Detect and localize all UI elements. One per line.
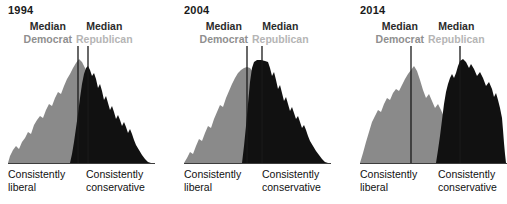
axis-labels: Consistently liberal Consistently conser…	[184, 168, 326, 198]
axis-label-liberal: Consistently liberal	[8, 168, 65, 194]
panel-2014: 2014 Median Democrat Median Republican C…	[352, 0, 502, 204]
axis-label-conservative: Consistently conservative	[262, 168, 321, 194]
axis-label-liberal: Consistently liberal	[184, 168, 241, 194]
axis-labels: Consistently liberal Consistently conser…	[360, 168, 502, 198]
baseline	[184, 163, 331, 164]
legend-median-label-republican: Median	[76, 20, 133, 33]
legend-republican: Median Republican	[76, 20, 133, 45]
baseline	[8, 163, 155, 164]
axis-label-conservative: Consistently conservative	[86, 168, 145, 194]
legend-median-label-republican: Median	[428, 20, 485, 33]
panel-2004: 2004 Median Democrat Median Republican C…	[176, 0, 326, 204]
distribution-plot	[360, 46, 507, 163]
republican-area	[436, 59, 506, 163]
legend-median-label-democrat: Median	[24, 20, 72, 33]
panel-year-label: 1994	[8, 4, 33, 16]
legend-democrat: Median Democrat	[376, 20, 424, 45]
legend-republican: Median Republican	[428, 20, 485, 45]
legend-median-label-democrat: Median	[200, 20, 248, 33]
legend-party-democrat: Democrat	[376, 33, 424, 46]
legend-party-democrat: Democrat	[24, 33, 72, 46]
distribution-plot	[184, 46, 331, 163]
panel-year-label: 2004	[184, 4, 209, 16]
panel-year-label: 2014	[360, 4, 385, 16]
legend-democrat: Median Democrat	[24, 20, 72, 45]
axis-label-liberal: Consistently liberal	[360, 168, 417, 194]
legend-median-label-democrat: Median	[376, 20, 424, 33]
legend-party-republican: Republican	[252, 33, 309, 46]
legend-party-republican: Republican	[76, 33, 133, 46]
baseline	[360, 163, 507, 164]
legend-democrat: Median Democrat	[200, 20, 248, 45]
axis-label-conservative: Consistently conservative	[438, 168, 497, 194]
legend-party-republican: Republican	[428, 33, 485, 46]
panel-1994: 1994 Median Democrat Median Republican C…	[0, 0, 150, 204]
legend-republican: Median Republican	[252, 20, 309, 45]
legend-party-democrat: Democrat	[200, 33, 248, 46]
axis-labels: Consistently liberal Consistently conser…	[8, 168, 150, 198]
distribution-plot	[8, 46, 155, 163]
legend-median-label-republican: Median	[252, 20, 309, 33]
republican-area	[242, 60, 328, 163]
